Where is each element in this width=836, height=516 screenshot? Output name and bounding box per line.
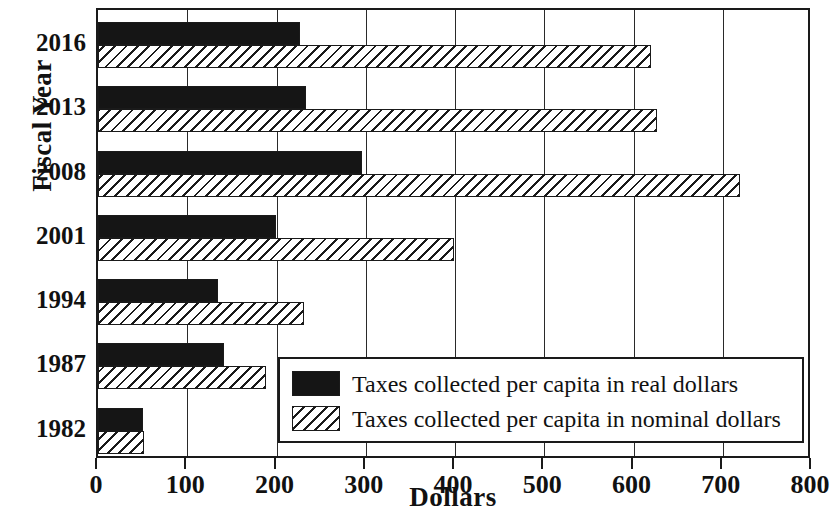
y-tick-label-2008: 2008 xyxy=(0,158,86,186)
bar-real-1982 xyxy=(98,408,143,431)
bar-real-1994 xyxy=(98,279,218,302)
y-tick-label-2001: 2001 xyxy=(0,222,86,250)
x-tick-mark-400 xyxy=(452,458,454,469)
x-tick-mark-600 xyxy=(631,458,633,469)
legend-item-nominal: Taxes collected per capita in nominal do… xyxy=(292,401,792,436)
bar-real-2013 xyxy=(98,86,306,109)
x-tick-mark-300 xyxy=(363,458,365,469)
x-tick-mark-200 xyxy=(274,458,276,469)
x-tick-mark-700 xyxy=(720,458,722,469)
x-tick-mark-100 xyxy=(184,458,186,469)
bar-nominal-2016 xyxy=(98,45,651,68)
x-tick-mark-0 xyxy=(95,458,97,469)
bar-real-2016 xyxy=(98,22,300,45)
solid-black-swatch xyxy=(292,371,340,396)
bar-real-2001 xyxy=(98,215,276,238)
legend-label: Taxes collected per capita in nominal do… xyxy=(352,407,781,431)
bar-nominal-1987 xyxy=(98,366,266,389)
hatched-swatch xyxy=(292,406,340,431)
legend-item-real: Taxes collected per capita in real dolla… xyxy=(292,366,792,401)
bar-nominal-2013 xyxy=(98,109,657,132)
x-axis-title: Dollars xyxy=(96,482,810,513)
bar-nominal-1994 xyxy=(98,302,304,325)
x-tick-mark-500 xyxy=(541,458,543,469)
y-tick-label-2016: 2016 xyxy=(0,29,86,57)
bar-chart: Fiscal Year 2016201320082001199419871982… xyxy=(0,0,836,516)
bar-nominal-2008 xyxy=(98,174,740,197)
bar-nominal-2001 xyxy=(98,238,454,261)
y-tick-label-1982: 1982 xyxy=(0,415,86,443)
y-tick-label-2013: 2013 xyxy=(0,93,86,121)
bar-real-2008 xyxy=(98,151,362,174)
y-tick-label-1987: 1987 xyxy=(0,350,86,378)
y-tick-label-1994: 1994 xyxy=(0,286,86,314)
legend-label: Taxes collected per capita in real dolla… xyxy=(352,372,738,396)
bar-nominal-1982 xyxy=(98,431,144,454)
x-tick-mark-800 xyxy=(809,458,811,469)
bar-real-1987 xyxy=(98,343,224,366)
chart-legend: Taxes collected per capita in real dolla… xyxy=(278,357,804,443)
